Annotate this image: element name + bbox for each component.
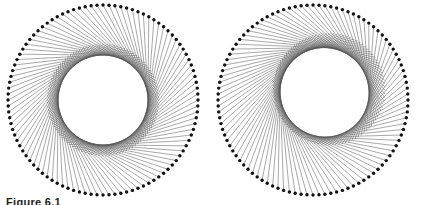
- outer-dot: [405, 116, 408, 119]
- outer-dot: [107, 3, 110, 6]
- outer-dot: [238, 38, 241, 41]
- outer-dot: [225, 139, 228, 142]
- outer-dot: [341, 189, 344, 192]
- outer-dot: [395, 144, 398, 147]
- outer-dot: [242, 33, 245, 36]
- outer-dot: [317, 193, 320, 196]
- spiral-lines: [218, 5, 408, 195]
- outer-dot: [397, 58, 400, 61]
- outer-dot: [193, 122, 196, 125]
- outer-dot: [266, 15, 269, 18]
- outer-dot: [125, 6, 128, 9]
- outer-dot: [196, 86, 199, 89]
- outer-dot: [392, 47, 395, 50]
- outer-dot: [24, 154, 27, 157]
- outer-dot: [152, 18, 155, 21]
- outer-dot: [171, 33, 174, 36]
- outer-dot: [219, 75, 222, 78]
- outer-dot: [376, 29, 379, 32]
- string-line: [278, 12, 384, 77]
- outer-dot: [282, 8, 285, 11]
- outer-dot: [72, 8, 75, 11]
- outer-dot: [225, 58, 228, 61]
- outer-dot: [41, 25, 44, 28]
- outer-dot: [7, 92, 10, 95]
- outer-dot: [218, 81, 221, 84]
- outer-dot: [317, 3, 320, 6]
- outer-dot: [175, 38, 178, 41]
- outer-dot: [231, 47, 234, 50]
- outer-dot: [13, 63, 16, 66]
- string-art-diagram-left: [6, 3, 199, 196]
- outer-dot: [256, 175, 259, 178]
- outer-dot: [195, 116, 198, 119]
- outer-dot: [223, 63, 226, 66]
- outer-dot: [36, 168, 39, 171]
- outer-dot: [66, 187, 69, 190]
- outer-dot: [282, 189, 285, 192]
- outer-dot: [367, 175, 370, 178]
- outer-dot: [288, 6, 291, 9]
- outer-dot: [223, 133, 226, 136]
- outer-dot: [276, 10, 279, 13]
- outer-dot: [136, 187, 139, 190]
- outer-dot: [216, 98, 219, 101]
- outer-dot: [171, 163, 174, 166]
- outer-dot: [323, 193, 326, 196]
- outer-dot: [406, 110, 409, 113]
- outer-dot: [406, 98, 409, 101]
- outer-dot: [8, 116, 11, 119]
- outer-dot: [397, 139, 400, 142]
- outer-dot: [101, 3, 104, 6]
- outer-dot: [217, 110, 220, 113]
- outer-dot: [89, 4, 92, 7]
- outer-dot: [196, 92, 199, 95]
- outer-dot: [288, 190, 291, 193]
- outer-dot: [113, 4, 116, 7]
- outer-dot: [196, 104, 199, 107]
- outer-dot: [182, 149, 185, 152]
- outer-dot: [251, 25, 254, 28]
- outer-dot: [221, 69, 224, 72]
- outer-dot: [136, 10, 139, 13]
- outer-dot: [299, 4, 302, 7]
- outer-dot: [221, 128, 224, 131]
- outer-dot: [372, 172, 375, 175]
- outer-dot: [41, 172, 44, 175]
- outer-dot: [305, 193, 308, 196]
- outer-dot: [21, 149, 24, 152]
- outer-dot: [388, 43, 391, 46]
- figure: [0, 0, 421, 205]
- outer-dot: [162, 25, 165, 28]
- outer-dot: [260, 179, 263, 182]
- string-line: [225, 35, 317, 136]
- outer-dot: [13, 133, 16, 136]
- outer-dot: [6, 98, 9, 101]
- outer-dot: [335, 190, 338, 193]
- outer-dot: [15, 139, 18, 142]
- outer-dot: [11, 69, 14, 72]
- outer-dot: [66, 10, 69, 13]
- outer-dot: [7, 86, 10, 89]
- outer-dot: [147, 15, 150, 18]
- outer-dot: [196, 98, 199, 101]
- outer-dot: [305, 3, 308, 6]
- outer-dot: [18, 144, 21, 147]
- outer-dot: [7, 110, 10, 113]
- outer-dot: [187, 139, 190, 142]
- outer-dot: [152, 179, 155, 182]
- string-art-diagram-right: [216, 3, 409, 196]
- outer-dot: [61, 12, 64, 15]
- center-hub: [91, 88, 115, 112]
- outer-dot: [157, 21, 160, 24]
- outer-dot: [400, 63, 403, 66]
- outer-dot: [217, 86, 220, 89]
- outer-dot: [329, 192, 332, 195]
- outer-dot: [185, 53, 188, 56]
- outer-dot: [311, 3, 314, 6]
- outer-dot: [182, 47, 185, 50]
- string-line: [358, 39, 386, 137]
- outer-dot: [61, 184, 64, 187]
- outer-dot: [228, 144, 231, 147]
- outer-dot: [193, 75, 196, 78]
